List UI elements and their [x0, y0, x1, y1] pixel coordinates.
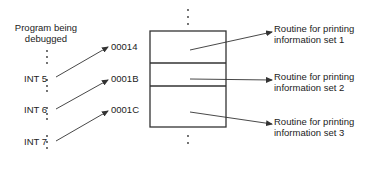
routine-2-label: Routine for printing information set 2	[274, 71, 354, 93]
program-dots	[46, 50, 48, 149]
int5-arrow	[56, 47, 108, 77]
routine-3-label: Routine for printing information set 3	[274, 116, 354, 138]
int6-arrow	[56, 80, 108, 109]
routine1-arrow	[190, 32, 272, 50]
routine2-arrow	[190, 79, 272, 80]
program-label: Program being debugged	[10, 22, 82, 44]
memory-dots	[187, 9, 189, 144]
int7-arrow	[56, 111, 108, 141]
int5-label: INT 5	[24, 73, 47, 84]
vector-address-0001B: 0001B	[111, 73, 138, 84]
vector-address-0001C: 0001C	[111, 104, 139, 115]
routine3-arrow	[190, 112, 272, 124]
int7-label: INT 7	[24, 136, 47, 147]
routine-1-label: Routine for printing information set 1	[274, 23, 354, 45]
int6-label: INT 6	[24, 104, 47, 115]
vector-address-00014: 00014	[111, 41, 137, 52]
